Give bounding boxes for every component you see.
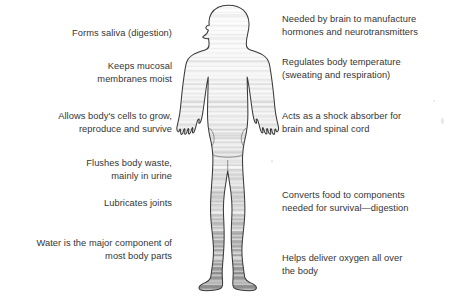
water-striation-pattern (176, 4, 280, 296)
label-major-component: Water is the major component of most bod… (0, 237, 172, 264)
label-cells-grow: Allows body's cells to grow, reproduce a… (0, 110, 172, 137)
label-flushes-waste: Flushes body waste, mainly in urine (0, 157, 172, 184)
water-functions-diagram: Forms saliva (digestion) Keeps mucosal m… (0, 0, 450, 300)
label-lubricates-joints: Lubricates joints (0, 197, 172, 210)
label-keeps-mucosal: Keeps mucosal membranes moist (0, 60, 172, 87)
human-body-silhouette (176, 4, 280, 296)
label-brain-hormones: Needed by brain to manufacture hormones … (282, 13, 450, 40)
body-figure-svg (176, 4, 280, 296)
label-forms-saliva: Forms saliva (digestion) (0, 27, 172, 40)
label-delivers-oxygen: Helps deliver oxygen all over the body (282, 252, 450, 279)
label-shock-absorber: Acts as a shock absorber for brain and s… (282, 110, 450, 137)
scan-speckle (433, 100, 435, 102)
label-body-temperature: Regulates body temperature (sweating and… (282, 56, 450, 83)
label-converts-food: Converts food to components needed for s… (282, 189, 450, 216)
